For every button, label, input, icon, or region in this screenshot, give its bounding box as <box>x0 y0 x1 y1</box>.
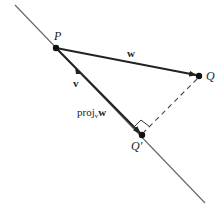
perpendicular-dashed <box>144 79 197 132</box>
right-angle-marker <box>135 120 150 127</box>
label-proj: projvw <box>77 106 106 120</box>
point-P <box>53 45 59 51</box>
label-v: v <box>73 77 79 89</box>
label-Qprime: Q′ <box>131 139 143 153</box>
label-P: P <box>53 29 62 43</box>
projection-diagram: P Q Q′ w v projvw <box>0 0 223 211</box>
proj-vector <box>56 48 140 133</box>
point-Q <box>196 73 202 79</box>
label-Q: Q <box>206 69 215 83</box>
label-w: w <box>127 47 135 59</box>
point-Qprime <box>139 132 145 138</box>
v-arrowhead <box>75 67 82 74</box>
